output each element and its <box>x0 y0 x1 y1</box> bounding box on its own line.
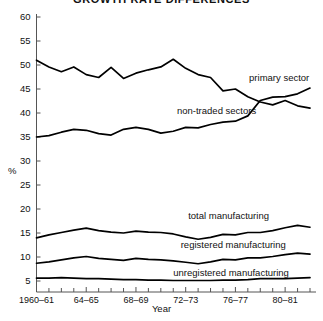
y-tick-40: 40 <box>5 108 31 118</box>
axes <box>37 14 317 292</box>
y-tick-60: 60 <box>5 12 31 22</box>
chart-figure: GROWTH RATE DIFFERENCES 5101520253035404… <box>0 0 323 321</box>
series-label-non-traded-sectors: non-traded sectors <box>177 105 256 116</box>
y-tick-55: 55 <box>5 36 31 46</box>
series-line-total-manufacturing <box>37 225 311 239</box>
y-tick-5: 5 <box>5 276 31 286</box>
y-tick-25: 25 <box>5 180 31 190</box>
x-axis-title: Year <box>0 303 323 314</box>
y-tick-45: 45 <box>5 84 31 94</box>
series-line-registered-manufacturing <box>37 253 311 264</box>
series-label-registered-manufacturing: registered manufacturing <box>181 239 286 250</box>
y-tick-15: 15 <box>5 228 31 238</box>
series-label-total-manufacturing: total manufacturing <box>188 210 269 221</box>
y-tick-35: 35 <box>5 132 31 142</box>
series-label-primary-sector: primary sector <box>249 72 309 83</box>
series-line-non-traded-sectors <box>37 88 311 137</box>
series-line-primary-sector <box>37 59 311 108</box>
y-tick-20: 20 <box>5 204 31 214</box>
y-tick-50: 50 <box>5 60 31 70</box>
series-label-unregistered-manufacturing: unregistered manufacturing <box>173 267 289 278</box>
y-axis-title: % <box>8 165 16 176</box>
y-tick-10: 10 <box>5 252 31 262</box>
